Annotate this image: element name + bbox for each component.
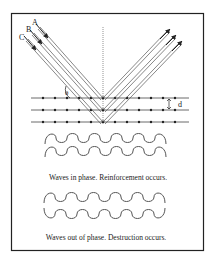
out-of-phase-waves — [44, 193, 165, 219]
bragg-diffraction-diagram: A B C θ d Waves in phase. Reinforcement … — [0, 0, 218, 265]
in-phase-caption: Waves in phase. Reinforcement occurs. — [49, 173, 167, 182]
theta-label: θ — [65, 89, 69, 97]
spacing-indicator — [167, 99, 171, 109]
spacing-label: d — [178, 100, 182, 109]
beam-label-c: C — [19, 33, 24, 42]
out-of-phase-caption: Waves out of phase. Destruction occurs. — [46, 233, 167, 242]
incident-beams — [26, 27, 103, 124]
beam-label-a: A — [32, 18, 38, 27]
in-phase-waves — [45, 134, 166, 158]
diagram-frame — [12, 14, 204, 251]
beam-label-b: B — [26, 25, 31, 34]
